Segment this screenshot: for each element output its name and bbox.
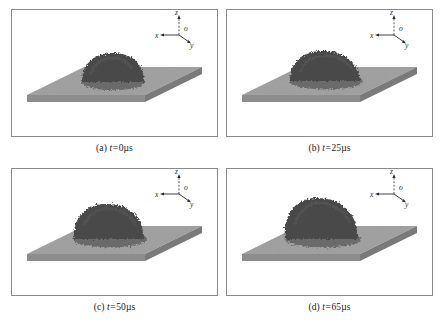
axis-label-z: z [389, 10, 393, 17]
panel-a-caption: (a) t=0µs [11, 143, 218, 153]
coordinate-axes: x y z o [369, 10, 409, 50]
axis-label-z: z [389, 169, 393, 176]
axis-label-z: z [174, 10, 178, 17]
panel-b-unit: µs [341, 143, 350, 153]
panel-a-tag: (a) [96, 143, 107, 153]
panel-b-tag: (b) [308, 143, 319, 153]
axis-label-y: y [189, 200, 194, 209]
axis-label-origin: o [399, 24, 403, 33]
axis-label-x: x [154, 31, 159, 40]
axis-label-y: y [189, 41, 194, 50]
panel-a-unit: µs [124, 143, 133, 153]
panel-c-frame: x y z o [11, 168, 218, 296]
panel-d-unit: µs [341, 302, 350, 312]
panel-b-scene: x y z o [227, 10, 432, 136]
panel-d-scene: x y z o [227, 169, 432, 295]
axis-label-origin: o [184, 24, 188, 33]
panel-d-value: 65 [332, 302, 342, 312]
panel-d-frame: x y z o [226, 168, 433, 296]
droplet [289, 51, 363, 90]
axis-label-x: x [154, 190, 159, 199]
panel-c-tag: (c) [94, 302, 105, 312]
panel-d-caption: (d) t=65µs [226, 302, 433, 312]
droplet [81, 53, 145, 90]
panel-c-caption: (c) t=50µs [11, 302, 218, 312]
axis-label-y: y [404, 200, 409, 209]
panel-a-frame: x y z o [11, 9, 218, 137]
figure-panel-c: x y z o (c) t=50µs [11, 168, 218, 312]
panel-c-unit: µs [126, 302, 135, 312]
coordinate-axes: x y z o [154, 10, 194, 50]
droplet [285, 198, 361, 248]
droplet [73, 204, 147, 248]
figure-panel-a: x y z o (a) t=0µs [11, 9, 218, 153]
panel-b-value: 25 [332, 143, 342, 153]
axis-label-x: x [369, 190, 374, 199]
panel-c-value: 50 [116, 302, 126, 312]
figure-panel-b: x y z o (b) t=25µs [226, 9, 433, 153]
axis-label-y: y [404, 41, 409, 50]
panel-c-scene: x y z o [12, 169, 217, 295]
panel-d-tag: (d) [308, 302, 319, 312]
axis-label-origin: o [184, 183, 188, 192]
panel-b-caption: (b) t=25µs [226, 143, 433, 153]
axis-label-z: z [174, 169, 178, 176]
figure-panel-d: x y z o (d) t=65µs [226, 168, 433, 312]
panel-b-frame: x y z o [226, 9, 433, 137]
figure-panel-grid: x y z o (a) t=0µs [0, 0, 444, 326]
coordinate-axes: x y z o [154, 169, 194, 209]
axis-label-origin: o [399, 183, 403, 192]
coordinate-axes: x y z o [369, 169, 409, 209]
axis-label-x: x [369, 31, 374, 40]
panel-a-scene: x y z o [12, 10, 217, 136]
